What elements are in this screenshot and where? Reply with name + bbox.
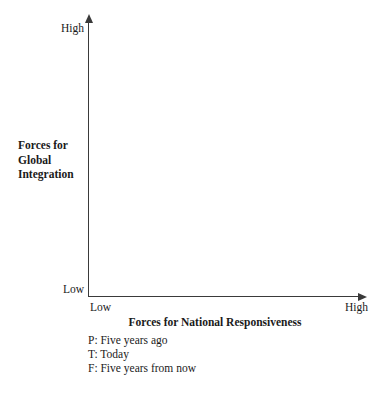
x-axis-low-label: Low <box>90 301 111 314</box>
integration-responsiveness-figure: High Low Low High Forces for Global Inte… <box>0 0 386 394</box>
y-axis-arrow-icon <box>85 14 93 23</box>
x-axis-title: Forces for National Responsiveness <box>0 315 386 329</box>
y-axis-title-line-2: Global <box>18 153 90 168</box>
y-axis-title: Forces for Global Integration <box>18 138 90 182</box>
legend-item-p: P: Five years ago <box>88 333 196 347</box>
legend-item-f: F: Five years from now <box>88 361 196 375</box>
x-axis-arrow-icon <box>358 293 367 301</box>
x-axis-line <box>88 296 360 297</box>
legend: P: Five years ago T: Today F: Five years… <box>88 333 196 376</box>
y-axis-high-label: High <box>61 22 84 35</box>
y-axis-low-label: Low <box>63 283 84 296</box>
legend-item-t: T: Today <box>88 347 196 361</box>
y-axis-title-line-1: Forces for <box>18 138 90 153</box>
x-axis-high-label: High <box>345 301 368 314</box>
y-axis-title-line-3: Integration <box>18 167 90 182</box>
